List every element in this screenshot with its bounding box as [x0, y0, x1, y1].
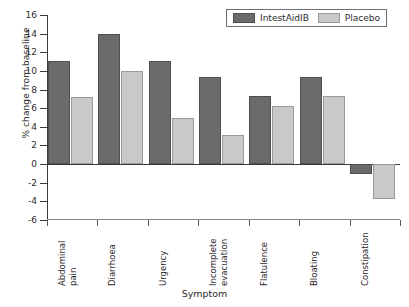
- y-tick-mark: [40, 52, 47, 53]
- plot-area: 1614121086420-2-4-6: [47, 15, 400, 220]
- bar: [71, 97, 93, 164]
- y-tick-mark: [40, 220, 47, 221]
- y-tick-label: 0: [15, 159, 37, 169]
- y-axis-title: % change from baseline: [21, 3, 31, 163]
- y-tick-mark: [40, 164, 47, 165]
- y-tick-label: 14: [15, 29, 37, 39]
- bar-group: [249, 15, 299, 220]
- legend-label: IntestAidIB: [260, 13, 309, 23]
- x-axis-title: Symptom: [0, 288, 409, 299]
- y-tick-mark: [40, 183, 47, 184]
- bar: [48, 61, 70, 164]
- y-tick-label: 10: [15, 66, 37, 76]
- bar: [249, 96, 271, 164]
- bar: [121, 71, 143, 164]
- x-category-label-line: Urgency: [158, 251, 168, 286]
- y-tick-mark: [40, 34, 47, 35]
- y-tick-mark: [40, 15, 47, 16]
- bar: [272, 106, 294, 164]
- bar: [222, 135, 244, 164]
- y-tick-label: -4: [15, 196, 37, 206]
- legend-item: Placebo: [318, 13, 380, 23]
- x-category-label-line: Bloating: [309, 251, 319, 286]
- bar-group: [350, 15, 400, 220]
- x-category-label-line: pain: [68, 268, 78, 286]
- bar: [172, 118, 194, 164]
- x-category-label-line: evacuation: [219, 239, 229, 286]
- bar: [149, 61, 171, 164]
- bar-groups: [47, 15, 400, 220]
- legend-label: Placebo: [345, 13, 380, 23]
- x-tick-mark: [400, 220, 401, 226]
- y-tick-mark: [40, 145, 47, 146]
- y-tick-mark: [40, 71, 47, 72]
- bar: [199, 77, 221, 164]
- legend-swatch: [233, 13, 255, 23]
- y-tick-label: 4: [15, 122, 37, 132]
- y-tick-mark: [40, 90, 47, 91]
- bar-group: [148, 15, 198, 220]
- y-tick-label: 12: [15, 47, 37, 57]
- legend-item: IntestAidIB: [233, 13, 309, 23]
- y-tick-label: -2: [15, 178, 37, 188]
- x-category-label-line: Abdominal: [57, 241, 67, 286]
- bar: [98, 34, 120, 164]
- y-tick-mark: [40, 108, 47, 109]
- bar-group: [97, 15, 147, 220]
- legend-swatch: [318, 13, 340, 23]
- bar: [350, 164, 372, 174]
- x-category-label-line: Incomplete: [208, 238, 218, 286]
- x-category-label-line: Flatulence: [259, 242, 269, 286]
- bar: [323, 96, 345, 164]
- y-tick-mark: [40, 201, 47, 202]
- y-tick-label: 6: [15, 103, 37, 113]
- y-tick-label: -6: [15, 215, 37, 225]
- y-tick-label: 8: [15, 85, 37, 95]
- y-tick-label: 16: [15, 10, 37, 20]
- y-tick-label: 2: [15, 140, 37, 150]
- bar: [373, 164, 395, 199]
- bar-group: [47, 15, 97, 220]
- x-category-label-line: Constipation: [360, 232, 370, 286]
- chart-legend: IntestAidIBPlacebo: [226, 9, 387, 27]
- bar-group: [198, 15, 248, 220]
- x-category-label-line: Diarrhoea: [107, 244, 117, 286]
- x-axis-category-labels: AbdominalpainDiarrhoeaUrgencyIncompletee…: [47, 224, 400, 286]
- y-tick-mark: [40, 127, 47, 128]
- bar: [300, 77, 322, 165]
- bar-group: [299, 15, 349, 220]
- bar-chart: % change from baseline 1614121086420-2-4…: [0, 0, 409, 307]
